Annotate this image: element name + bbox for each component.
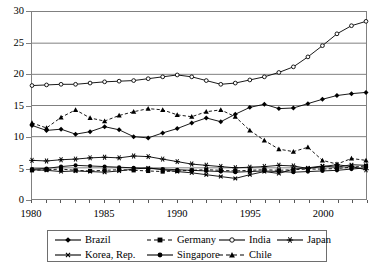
data-point-filled-circle	[248, 169, 252, 173]
data-point-open-circle	[230, 237, 234, 241]
legend-item-germany[interactable]: Germany	[146, 232, 216, 247]
series-line	[32, 21, 366, 85]
data-point-filled-circle	[291, 170, 295, 174]
x-tick-label: 2000	[306, 208, 340, 219]
y-tick-label: 25	[0, 38, 24, 48]
x-tick-mark	[352, 200, 353, 203]
x-tick-mark	[60, 200, 61, 203]
data-point-filled-circle	[204, 169, 208, 173]
series-brazil	[30, 90, 369, 140]
data-point-diamond	[334, 93, 339, 98]
data-point-triangle	[88, 115, 93, 120]
data-point-open-circle	[103, 80, 107, 84]
plot-area	[31, 11, 367, 200]
data-point-diamond	[218, 119, 223, 124]
data-point-diamond	[291, 106, 296, 111]
chart-legend: BrazilGermanyIndiaJapan Korea, Rep.Singa…	[47, 230, 327, 262]
data-point-diamond	[364, 90, 369, 95]
legend-item-india[interactable]: India	[218, 232, 271, 247]
data-point-open-circle	[117, 79, 121, 83]
x-tick-mark	[104, 200, 105, 203]
data-point-diamond	[349, 91, 354, 96]
x-tick-mark	[221, 200, 222, 203]
data-point-asterisk	[131, 154, 137, 159]
legend-label: Korea, Rep.	[82, 249, 135, 260]
y-tick-label: 5	[0, 164, 24, 174]
legend-item-singapore[interactable]: Singapore	[146, 247, 220, 262]
series-line	[32, 109, 366, 164]
data-point-open-circle	[364, 19, 368, 23]
data-point-filled-circle	[233, 170, 237, 174]
y-tick-label: 0	[0, 195, 24, 205]
series-chile	[29, 106, 368, 166]
x-tick-mark	[206, 200, 207, 203]
x-tick-mark	[367, 200, 368, 203]
data-point-triangle	[58, 115, 63, 120]
data-point-asterisk	[44, 158, 50, 163]
legend-item-japan[interactable]: Japan	[276, 232, 331, 247]
data-point-open-circle	[292, 65, 296, 69]
data-point-filled-circle	[158, 252, 163, 257]
data-point-diamond	[102, 124, 107, 129]
data-point-triangle	[160, 107, 165, 112]
data-point-asterisk	[102, 155, 108, 160]
data-point-triangle	[146, 106, 151, 111]
data-point-filled-circle	[117, 165, 121, 169]
data-point-open-circle	[350, 24, 354, 28]
x-axis: 19801985199019952000	[31, 200, 368, 222]
data-point-open-circle	[190, 75, 194, 79]
data-point-open-circle	[161, 75, 165, 79]
data-point-filled-circle	[349, 167, 353, 171]
legend-key-triangle-icon	[218, 249, 246, 261]
legend-item-chile[interactable]: Chile	[218, 247, 272, 262]
x-tick-mark	[323, 200, 324, 203]
data-point-diamond	[320, 97, 325, 102]
data-point-triangle	[175, 112, 180, 117]
x-tick-mark	[338, 200, 339, 203]
data-point-diamond	[59, 127, 64, 132]
data-point-filled-circle	[30, 167, 34, 171]
x-tick-mark	[294, 200, 295, 203]
data-point-filled-circle	[146, 166, 150, 170]
data-point-filled-circle	[262, 169, 266, 173]
data-point-diamond	[65, 237, 71, 243]
data-point-asterisk	[174, 159, 180, 164]
legend-label: Singapore	[174, 249, 220, 260]
data-point-open-circle	[59, 82, 63, 86]
legend-item-korea-rep[interactable]: Korea, Rep.	[54, 247, 135, 262]
data-point-diamond	[189, 120, 194, 125]
x-tick-mark	[119, 200, 120, 203]
data-point-diamond	[88, 129, 93, 134]
legend-item-brazil[interactable]: Brazil	[54, 232, 111, 247]
data-point-asterisk	[189, 162, 195, 167]
data-point-diamond	[305, 101, 310, 106]
data-point-open-circle	[146, 77, 150, 81]
data-point-open-circle	[306, 55, 310, 59]
legend-label: Germany	[174, 234, 216, 245]
legend-key-diamond-icon	[54, 234, 82, 246]
data-point-diamond	[131, 134, 136, 139]
data-point-filled-circle	[364, 166, 368, 170]
data-point-triangle	[276, 146, 281, 151]
x-tick-mark	[162, 200, 163, 203]
x-tick-mark	[133, 200, 134, 203]
data-point-open-circle	[175, 73, 179, 77]
legend-key-open-circle-icon	[218, 234, 246, 246]
legend-row-1: BrazilGermanyIndiaJapan	[48, 232, 326, 247]
x-tick-mark	[89, 200, 90, 203]
data-point-open-circle	[88, 81, 92, 85]
legend-key-asterisk-icon	[276, 234, 304, 246]
data-point-filled-circle	[73, 163, 77, 167]
data-point-triangle	[320, 158, 325, 163]
series-layer	[32, 12, 366, 199]
data-point-filled-circle	[190, 168, 194, 172]
data-point-open-circle	[262, 75, 266, 79]
data-point-open-circle	[132, 79, 136, 83]
x-tick-mark	[75, 200, 76, 203]
data-point-filled-circle	[59, 165, 63, 169]
data-point-open-circle	[204, 79, 208, 83]
chart-figure: 302520151050 19801985199019952000 Brazil…	[0, 0, 373, 267]
legend-label: Chile	[246, 249, 272, 260]
data-point-filled-circle	[88, 164, 92, 168]
data-point-diamond	[160, 130, 165, 135]
